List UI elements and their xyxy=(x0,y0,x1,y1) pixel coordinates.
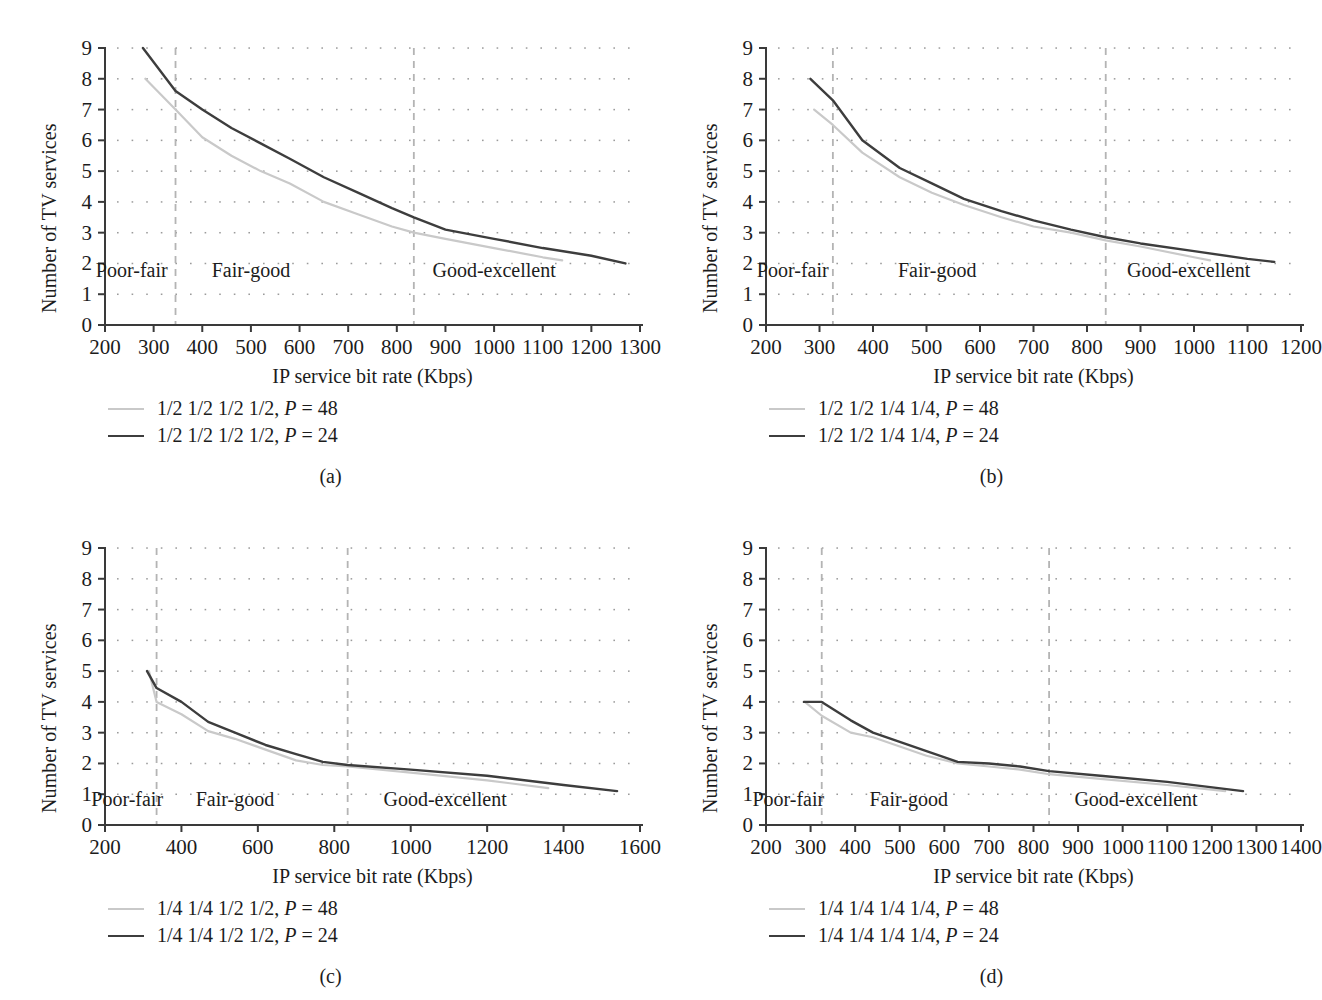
svg-text:4: 4 xyxy=(82,190,93,214)
y-axis-label: Number of TV services xyxy=(699,623,722,813)
svg-text:Poor-fair: Poor-fair xyxy=(91,788,163,810)
svg-text:0: 0 xyxy=(743,813,754,837)
svg-text:300: 300 xyxy=(138,335,170,359)
svg-text:1200: 1200 xyxy=(466,835,508,859)
chart-panel-d: 0123456789200300400500600700800900100011… xyxy=(661,500,1322,1000)
axis-lines xyxy=(766,47,1304,325)
data-series-group xyxy=(804,702,1243,791)
y-axis-label: Number of TV services xyxy=(38,123,61,313)
svg-text:6: 6 xyxy=(743,128,754,152)
y-axis-label: Number of TV services xyxy=(699,123,722,313)
svg-text:700: 700 xyxy=(1018,335,1050,359)
panel-caption-d: (d) xyxy=(661,965,1322,988)
x-axis-label: IP service bit rate (Kbps) xyxy=(766,365,1301,388)
x-axis-ticks: 2004006008001000120014001600 xyxy=(89,825,661,859)
svg-text:300: 300 xyxy=(804,335,836,359)
legend-item: 1/2 1/2 1/2 1/2, P = 48 xyxy=(108,395,338,422)
chart-panel-c: 01234567892004006008001000120014001600Po… xyxy=(0,500,661,1000)
svg-text:700: 700 xyxy=(973,835,1005,859)
grid-dots xyxy=(778,47,1291,295)
x-axis-label: IP service bit rate (Kbps) xyxy=(766,865,1301,888)
svg-text:200: 200 xyxy=(750,335,782,359)
svg-text:5: 5 xyxy=(743,659,754,683)
svg-text:Fair-good: Fair-good xyxy=(212,259,290,282)
panel-caption-a: (a) xyxy=(0,465,661,488)
svg-text:0: 0 xyxy=(82,313,93,337)
series-line-d-1 xyxy=(805,702,1225,791)
svg-text:2: 2 xyxy=(743,251,754,275)
svg-text:500: 500 xyxy=(884,835,916,859)
legend-b: 1/2 1/2 1/4 1/4, P = 481/2 1/2 1/4 1/4, … xyxy=(769,395,999,449)
data-series-group xyxy=(147,671,617,791)
legend-line-swatch-icon xyxy=(769,435,805,437)
svg-text:1000: 1000 xyxy=(390,835,432,859)
svg-text:600: 600 xyxy=(242,835,274,859)
chart-panel-a: 0123456789200300400500600700800900100011… xyxy=(0,0,661,500)
svg-text:1200: 1200 xyxy=(1280,335,1322,359)
series-line-a-2 xyxy=(143,48,625,263)
svg-text:8: 8 xyxy=(82,567,93,591)
legend-a: 1/2 1/2 1/2 1/2, P = 481/2 1/2 1/2 1/2, … xyxy=(108,395,338,449)
legend-item-label: 1/4 1/4 1/4 1/4, P = 48 xyxy=(818,895,999,922)
legend-d: 1/4 1/4 1/4 1/4, P = 481/4 1/4 1/4 1/4, … xyxy=(769,895,999,949)
legend-item-label: 1/2 1/2 1/2 1/2, P = 24 xyxy=(157,422,338,449)
svg-text:6: 6 xyxy=(82,128,93,152)
svg-text:1100: 1100 xyxy=(1227,335,1268,359)
axis-lines xyxy=(105,547,643,825)
svg-text:600: 600 xyxy=(929,835,961,859)
svg-text:6: 6 xyxy=(82,628,93,652)
svg-text:1300: 1300 xyxy=(619,335,661,359)
svg-text:3: 3 xyxy=(82,221,93,245)
svg-text:4: 4 xyxy=(743,190,754,214)
series-line-c-2 xyxy=(147,671,617,791)
svg-text:400: 400 xyxy=(839,835,871,859)
svg-text:8: 8 xyxy=(743,67,754,91)
region-divider-lines xyxy=(157,548,348,825)
svg-text:Poor-fair: Poor-fair xyxy=(757,259,829,281)
svg-text:Good-excellent: Good-excellent xyxy=(432,259,556,281)
svg-text:4: 4 xyxy=(743,690,754,714)
legend-c: 1/4 1/4 1/2 1/2, P = 481/4 1/4 1/2 1/2, … xyxy=(108,895,338,949)
svg-text:1300: 1300 xyxy=(1235,835,1277,859)
legend-item-label: 1/2 1/2 1/2 1/2, P = 48 xyxy=(157,395,338,422)
legend-line-swatch-icon xyxy=(769,408,805,410)
svg-text:800: 800 xyxy=(1018,835,1050,859)
svg-text:5: 5 xyxy=(82,159,93,183)
svg-text:4: 4 xyxy=(82,690,93,714)
svg-text:0: 0 xyxy=(743,313,754,337)
legend-line-swatch-icon xyxy=(769,908,805,910)
svg-text:7: 7 xyxy=(82,598,93,622)
svg-text:5: 5 xyxy=(82,659,93,683)
panel-caption-b: (b) xyxy=(661,465,1322,488)
svg-text:600: 600 xyxy=(284,335,316,359)
svg-text:800: 800 xyxy=(319,835,351,859)
legend-item: 1/4 1/4 1/4 1/4, P = 24 xyxy=(769,922,999,949)
svg-text:Good-excellent: Good-excellent xyxy=(1127,259,1251,281)
svg-text:Poor-fair: Poor-fair xyxy=(752,788,824,810)
svg-text:0: 0 xyxy=(82,813,93,837)
series-line-b-2 xyxy=(810,79,1274,262)
svg-text:500: 500 xyxy=(911,335,943,359)
y-axis-ticks: 0123456789 xyxy=(743,36,767,337)
legend-item: 1/4 1/4 1/2 1/2, P = 24 xyxy=(108,922,338,949)
svg-text:Fair-good: Fair-good xyxy=(196,788,274,811)
legend-line-swatch-icon xyxy=(108,908,144,910)
svg-text:200: 200 xyxy=(89,335,121,359)
svg-text:800: 800 xyxy=(381,335,413,359)
legend-item-label: 1/4 1/4 1/2 1/2, P = 48 xyxy=(157,895,338,922)
svg-text:5: 5 xyxy=(743,159,754,183)
svg-text:9: 9 xyxy=(743,36,754,60)
svg-text:7: 7 xyxy=(743,98,754,122)
chart-panel-b: 0123456789200300400500600700800900100011… xyxy=(661,0,1322,500)
svg-text:800: 800 xyxy=(1071,335,1103,359)
svg-text:400: 400 xyxy=(166,835,198,859)
y-axis-label: Number of TV services xyxy=(38,623,61,813)
region-labels: Poor-fairFair-goodGood-excellent xyxy=(91,788,507,811)
svg-text:3: 3 xyxy=(82,721,93,745)
legend-item: 1/2 1/2 1/4 1/4, P = 48 xyxy=(769,395,999,422)
series-line-a-1 xyxy=(145,79,562,261)
axis-lines xyxy=(105,47,643,325)
figure-four-panel-line-charts: 0123456789200300400500600700800900100011… xyxy=(0,0,1322,1000)
svg-text:7: 7 xyxy=(743,598,754,622)
axis-lines xyxy=(766,547,1304,825)
